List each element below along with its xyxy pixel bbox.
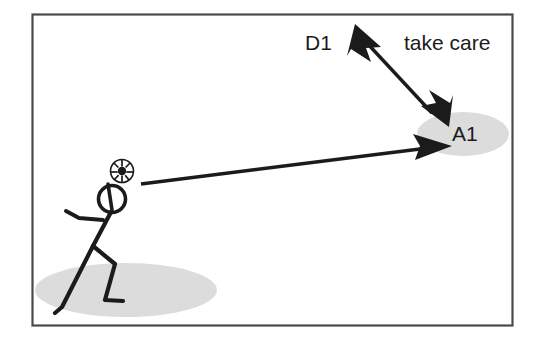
soccer-ball-icon xyxy=(111,160,134,184)
diagram-canvas: D1 take care A1 xyxy=(0,0,535,344)
label-take-care-note: take care xyxy=(404,31,490,54)
soccer-ball-center-pentagon xyxy=(118,167,126,175)
label-attacker: A1 xyxy=(452,122,478,145)
soccer-tactics-scene: D1 take care A1 xyxy=(0,0,535,344)
label-defender: D1 xyxy=(305,31,332,54)
